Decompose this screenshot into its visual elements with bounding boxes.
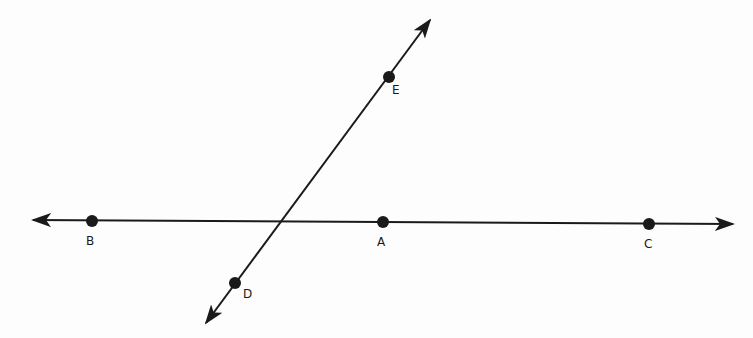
geometry-diagram: BACED (0, 0, 753, 338)
point-e (383, 71, 395, 83)
line-DE (206, 20, 430, 323)
point-label-c: C (644, 237, 652, 251)
point-c (643, 218, 655, 230)
point-d (229, 277, 241, 289)
diagram-svg: BACED (0, 0, 753, 338)
point-b (86, 215, 98, 227)
point-label-d: D (243, 287, 252, 301)
point-label-a: A (377, 235, 386, 249)
point-a (377, 216, 389, 228)
point-label-e: E (392, 83, 400, 97)
point-label-b: B (86, 234, 94, 248)
